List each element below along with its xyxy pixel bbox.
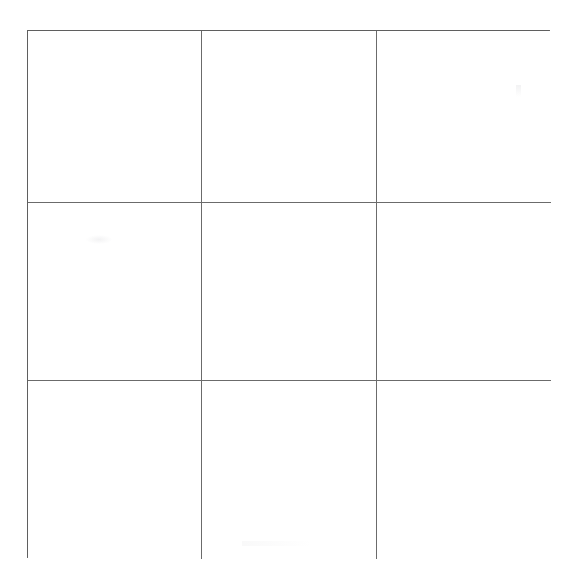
grid-cell-r1c1[interactable] (28, 31, 202, 203)
grid-cell-r2c1[interactable] (28, 203, 202, 381)
grid-cell-r3c1[interactable] (28, 381, 202, 559)
scan-artifact-top-right (516, 85, 521, 97)
grid-cell-r1c3[interactable] (377, 31, 551, 203)
page-surface (0, 0, 579, 587)
scan-artifact-mid-left (86, 235, 112, 244)
scan-artifact-bottom-center (242, 541, 312, 546)
grid-cell-r2c2[interactable] (202, 203, 377, 381)
grid-table (27, 30, 550, 558)
grid-cell-r1c2[interactable] (202, 31, 377, 203)
grid-cell-r3c2[interactable] (202, 381, 377, 559)
grid-cell-r3c3[interactable] (377, 381, 551, 559)
grid-cell-r2c3[interactable] (377, 203, 551, 381)
